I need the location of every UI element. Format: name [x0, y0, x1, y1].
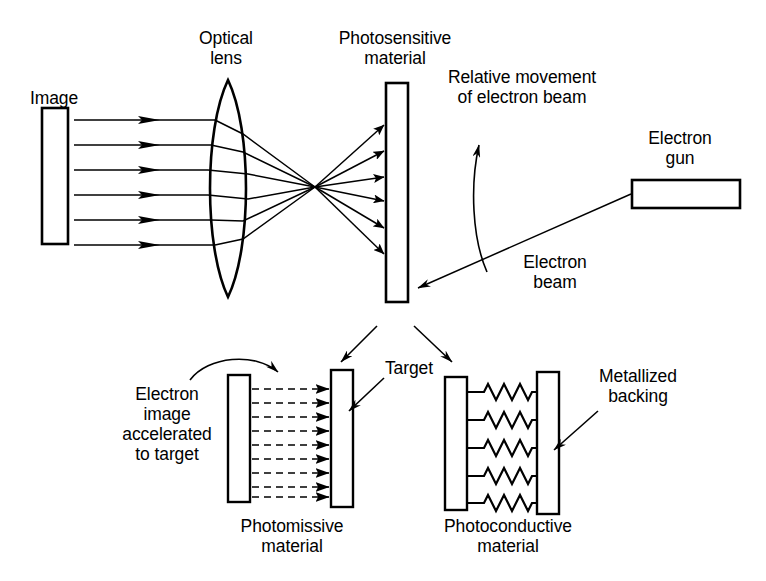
incoming-ray-arrowheads: [138, 116, 160, 249]
resistor-elements: [468, 384, 537, 511]
target-label: Target: [368, 358, 450, 378]
incoming-light-rays: [74, 120, 215, 245]
electron-gun-label: Electron gun: [620, 128, 740, 168]
photosensitive-plate: [386, 83, 408, 302]
branch-arrows: [341, 326, 452, 362]
target-plate: [331, 370, 353, 507]
photomissive-plate: [228, 375, 250, 502]
metallized-backing-label: Metallized backing: [568, 366, 708, 406]
biconvex-lens: [210, 80, 246, 297]
photosensitive-material-label: Photosensitive material: [315, 28, 475, 68]
optical-lens-label: Optical lens: [166, 28, 286, 68]
target-pointer-arrow: [349, 378, 384, 411]
relative-movement-label: Relative movement of electron beam: [432, 67, 612, 107]
camera-tube-diagram: Optical lens Photosensitive material Ima…: [0, 0, 766, 581]
dashed-electron-arrows: [252, 389, 329, 497]
photoconductive-material-label: Photoconductive material: [418, 516, 598, 556]
image-label: Image: [30, 88, 120, 108]
electron-gun-box: [632, 180, 740, 208]
electron-image-accelerated-label: Electron image accelerated to target: [108, 384, 226, 464]
metallized-backing-plate: [537, 372, 559, 514]
diverging-rays: [315, 125, 384, 254]
photomissive-material-label: Photomissive material: [212, 516, 372, 556]
relative-movement-arrow: [474, 145, 487, 272]
photoconductive-plate: [445, 377, 467, 510]
electron-beam-label: Electron beam: [500, 252, 610, 292]
metallized-backing-pointer-arrow: [554, 411, 598, 450]
image-plate: [42, 108, 68, 244]
